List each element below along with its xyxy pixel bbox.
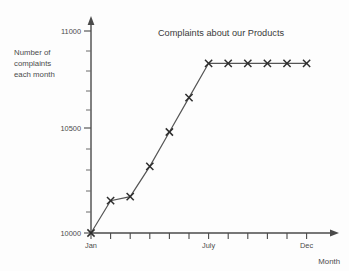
y-axis-caption-line-1: Number of	[14, 48, 51, 57]
y-tick-label-10000: 10000	[60, 229, 81, 238]
x-tick-label-jan: Jan	[85, 241, 97, 250]
y-axis-caption-line-2: complaints	[14, 59, 51, 68]
y-tick-label-10500: 10500	[60, 124, 81, 133]
y-axis-caption-line-3: each month	[14, 70, 55, 79]
line-chart-figure: Complaints about our Products Number of …	[0, 0, 349, 271]
chart-title: Complaints about our Products	[158, 28, 285, 38]
chart-background	[0, 0, 349, 271]
x-tick-label-dec: Dec	[300, 241, 313, 250]
chart-canvas: Complaints about our Products Number of …	[0, 0, 349, 271]
y-tick-label-11000: 11000	[61, 27, 81, 36]
x-axis-caption: Month	[318, 257, 340, 266]
x-tick-label-july: July	[202, 241, 215, 250]
